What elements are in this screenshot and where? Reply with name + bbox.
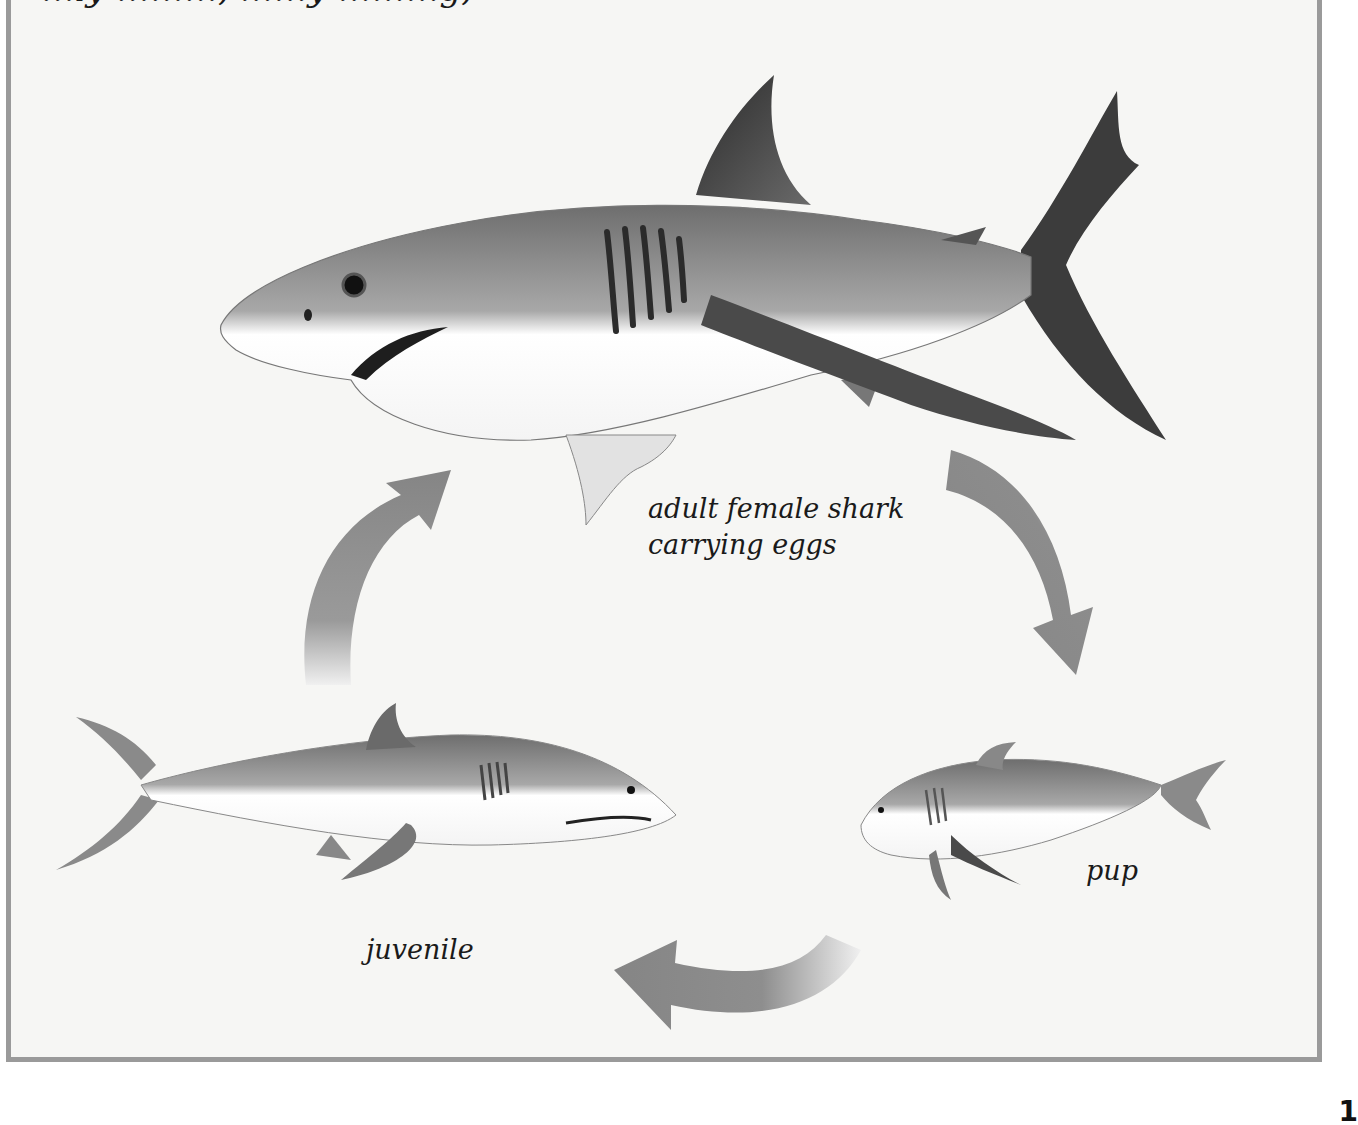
adult-shark-illustration (221, 75, 1166, 525)
juvenile-shark-illustration (56, 703, 676, 880)
stage-label-juvenile: juvenile (366, 932, 474, 968)
arrow-juvenile-to-adult-icon (304, 470, 451, 685)
page-number: 1 (1339, 1095, 1358, 1125)
pup-shark-illustration (861, 742, 1226, 900)
stage-label-pup: pup (1086, 853, 1138, 889)
arrow-adult-to-pup-icon (946, 450, 1093, 675)
adult-label-line1: adult female shark (648, 491, 904, 527)
stage-label-adult: adult female shark carrying eggs (648, 491, 904, 563)
figure-panel: …ly ………, ……y ………g, (6, 0, 1322, 1062)
arrow-pup-to-juvenile-icon (614, 935, 861, 1030)
adult-label-line2: carrying eggs (648, 527, 904, 563)
